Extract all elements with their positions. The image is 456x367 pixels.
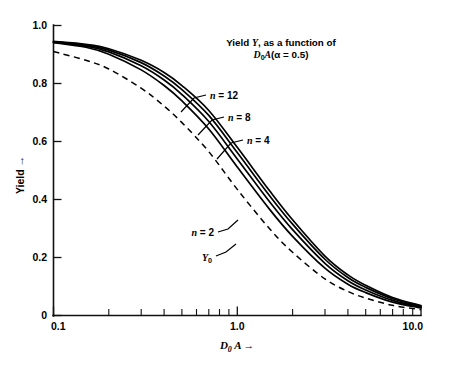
chart-figure: 1.0 0.8 0.6 0.4 0.2 0 xyxy=(0,0,456,367)
series-label-n-8: n = 8 xyxy=(228,112,251,123)
series-label-n-8-value: = 8 xyxy=(234,112,251,123)
series-label-n-2: n = 2 xyxy=(191,227,214,238)
y-axis-title: Yield → xyxy=(14,156,26,194)
y-tick-label-0.6: 0.6 xyxy=(32,135,47,147)
title-equals: = xyxy=(280,49,291,60)
x-tick-label-10.0: 10.0 xyxy=(403,320,424,332)
series-label-y0-sub: 0 xyxy=(208,256,212,265)
title-tail: , as a function of xyxy=(258,37,337,48)
series-label-n-12-value: = 12 xyxy=(216,90,239,101)
chart-title-line-1: Yield Y, as a function of xyxy=(226,37,336,48)
x-axis-title-arrow: → xyxy=(244,339,255,351)
yield-vs-d0a-chart: 1.0 0.8 0.6 0.4 0.2 0 xyxy=(0,0,456,367)
series-label-n-2-value: = 2 xyxy=(197,227,214,238)
title-paren-close: ) xyxy=(305,49,308,60)
x-axis-title-d: D xyxy=(219,339,228,351)
x-tick-label-1.0: 1.0 xyxy=(230,320,245,332)
y-tick-label-0: 0 xyxy=(41,309,47,321)
x-tick-label-0.1: 0.1 xyxy=(51,320,66,332)
series-label-n-12: n = 12 xyxy=(210,90,239,101)
y-tick-label-0.8: 0.8 xyxy=(32,77,47,89)
y-tick-label-0.4: 0.4 xyxy=(32,193,47,205)
title-alpha-value: 0.5 xyxy=(292,49,306,60)
title-d-var: D xyxy=(253,49,261,60)
title-lead: Yield xyxy=(226,37,252,48)
series-label-n-4: n = 4 xyxy=(247,135,270,146)
series-label-n-4-value: = 4 xyxy=(253,135,270,146)
y-tick-label-1: 1.0 xyxy=(32,19,47,31)
y-tick-label-0.2: 0.2 xyxy=(32,251,47,263)
